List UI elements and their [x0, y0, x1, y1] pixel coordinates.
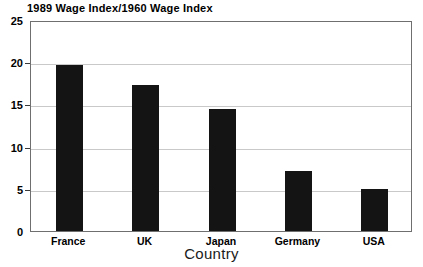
y-tick-label-20: 20: [11, 57, 23, 69]
bar-chart-figure: 1989 Wage Index/1960 Wage Index 05101520…: [0, 0, 423, 267]
plot-area: [30, 21, 412, 232]
y-tick-label-25: 25: [11, 15, 23, 27]
y-tick-label-5: 5: [17, 184, 23, 196]
bar-uk: [132, 85, 159, 231]
y-axis: 0510152025: [0, 0, 30, 267]
chart-title: 1989 Wage Index/1960 Wage Index: [27, 2, 213, 14]
bar-france: [56, 65, 83, 231]
bar-germany: [285, 171, 312, 231]
bar-japan: [209, 109, 236, 231]
bar-usa: [361, 189, 388, 231]
y-tick-label-0: 0: [17, 226, 23, 238]
bars-layer: [31, 22, 411, 231]
y-tick-label-15: 15: [11, 99, 23, 111]
x-axis-title: Country: [0, 245, 423, 262]
y-tick-label-10: 10: [11, 142, 23, 154]
